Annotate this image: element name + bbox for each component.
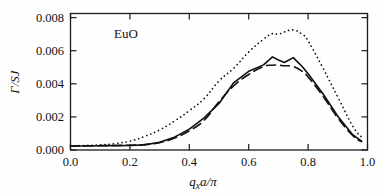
svg-text:qxa/π: qxa/π xyxy=(189,174,217,191)
y-axis-title: Γ/SJ xyxy=(7,69,22,95)
y-tick-label-4: 0.008 xyxy=(36,11,64,25)
figure-panel: 0.000 0.002 0.004 0.006 0.008 0.0 0.2 0.… xyxy=(0,0,385,195)
chart-svg: 0.000 0.002 0.004 0.006 0.008 0.0 0.2 0.… xyxy=(0,0,385,195)
x-tick-label-0: 0.0 xyxy=(63,155,79,169)
x-tick-label-5: 1.0 xyxy=(360,155,376,169)
x-axis-title: qxa/π xyxy=(189,174,217,191)
curve-solid xyxy=(71,57,362,146)
data-curves xyxy=(71,30,362,146)
x-tick-label-4: 0.8 xyxy=(300,155,316,169)
x-tick-label-3: 0.6 xyxy=(241,155,257,169)
x-tick-label-1: 0.2 xyxy=(122,155,138,169)
y-tick-label-2: 0.004 xyxy=(36,77,65,91)
y-tick-label-0: 0.000 xyxy=(36,143,64,157)
y-tick-label-3: 0.006 xyxy=(36,44,64,58)
y-tick-label-1: 0.002 xyxy=(36,110,64,124)
x-tick-label-2: 0.4 xyxy=(181,155,197,169)
x-axis-title-rest: a/π xyxy=(200,174,217,189)
series-annotation-euo: EuO xyxy=(114,26,138,41)
